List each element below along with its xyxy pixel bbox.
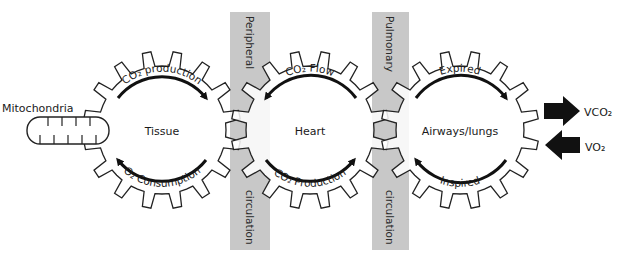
airways-lungs-label: Airways/lungs bbox=[422, 125, 499, 138]
gas-exchange-gear-diagram: Mitochondria Peripheral circulation Pulm… bbox=[0, 0, 624, 269]
vo2-in-arrow-icon bbox=[545, 130, 580, 160]
tissue-label: Tissue bbox=[144, 125, 180, 138]
vo2-label: VO₂ bbox=[585, 141, 605, 154]
mitochondria-label: Mitochondria bbox=[2, 102, 74, 115]
pulmonary-circulation-label: circulation bbox=[384, 190, 396, 245]
heart-label: Heart bbox=[295, 125, 326, 138]
vco2-out-arrow-icon bbox=[544, 96, 580, 126]
peripheral-label: Peripheral bbox=[244, 16, 256, 69]
mitochondria-icon bbox=[27, 117, 109, 144]
pulmonary-label: Pulmonary bbox=[384, 16, 396, 72]
vco2-label: VCO₂ bbox=[584, 106, 612, 119]
peripheral-circulation-label: circulation bbox=[244, 190, 256, 245]
